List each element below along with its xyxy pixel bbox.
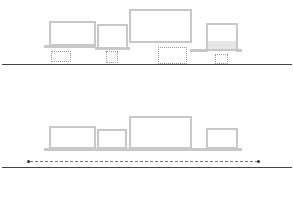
- bottom-elevation: [0, 0, 293, 215]
- bottom-ground-line: [2, 167, 292, 168]
- span-dimension-line: [30, 161, 258, 162]
- bottom-block-1: [49, 126, 96, 149]
- bottom-block-4: [206, 128, 238, 149]
- bottom-block-2: [97, 129, 127, 149]
- bottom-block-3: [129, 116, 192, 149]
- span-arrow-right-icon: [257, 160, 260, 163]
